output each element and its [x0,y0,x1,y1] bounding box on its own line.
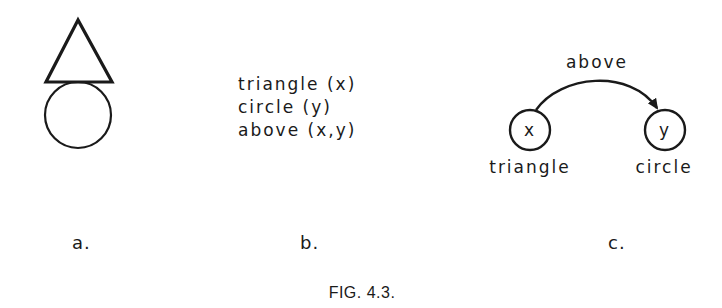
edge-label-above: above [566,52,628,72]
node-caption: triangle [489,157,571,177]
figure-canvas: triangle (x) circle (y) above (x,y) abov… [0,0,722,308]
edge-arrow [536,81,657,110]
panel-label-a: a. [72,232,91,253]
panel-label-c: c. [608,232,626,253]
panel-label-b: b. [300,232,319,253]
node-x: x [510,110,550,150]
circle-shape [45,82,111,148]
predicate-line: above (x,y) [238,120,356,140]
predicate-line: circle (y) [238,97,332,117]
predicate-line: triangle (x) [238,74,356,94]
node-y: y [645,110,685,150]
panel-b: triangle (x) circle (y) above (x,y) [238,74,356,140]
figure-caption: FIG. 4.3. [329,284,396,301]
panel-a [45,20,112,148]
triangle-shape [46,20,112,82]
node-caption: circle [635,157,692,177]
node-symbol: x [524,120,536,140]
node-symbol: y [659,120,671,140]
panel-c: above x triangle y circle [489,52,692,177]
